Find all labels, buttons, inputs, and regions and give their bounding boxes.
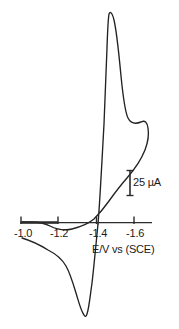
- cv-plot-svg: [0, 0, 179, 329]
- x-tick-label-4: -1.6: [126, 228, 144, 239]
- cv-trace-group: [22, 12, 148, 316]
- x-axis-group: [21, 217, 153, 225]
- x-tick-label-2: -1.2: [50, 228, 68, 239]
- cyclic-voltammogram-figure: -1.0 -1.2 -1.4 -1.6 E/V vs (SCE) 25 µA: [0, 0, 179, 329]
- current-scalebar-label: 25 µA: [133, 176, 161, 188]
- x-tick-label-3: -1.4: [89, 228, 107, 239]
- anodic-sweep-path: [22, 12, 148, 229]
- x-tick-label-1: -1.0: [14, 228, 32, 239]
- x-axis-title: E/V vs (SCE): [92, 243, 154, 255]
